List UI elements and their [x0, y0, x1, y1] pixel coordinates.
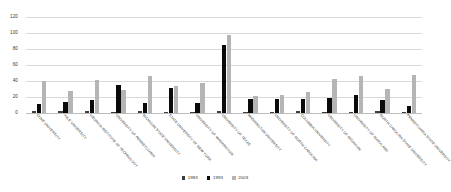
bar — [243, 112, 247, 113]
bar — [148, 76, 152, 113]
bar — [248, 99, 252, 113]
x-axis-label-slot: NORTH CAROLINA STATE UNIVERSITY — [369, 114, 395, 172]
legend-label: 1983 — [188, 176, 198, 180]
x-axis-label-slot: STATE UNIVERSITY OF NEW YORK — [158, 114, 184, 172]
y-axis-tick-label: 120 — [0, 15, 18, 20]
x-axis-label-slot: UNIVERSITY OF PENNSYLVANIA — [105, 114, 131, 172]
bar-group — [396, 17, 422, 113]
bar — [200, 83, 204, 113]
bar-group — [105, 17, 131, 113]
bar — [121, 90, 125, 113]
y-axis-tick-label: 60 — [0, 63, 18, 68]
bar-group — [26, 17, 52, 113]
legend-swatch-icon — [182, 176, 186, 180]
bar — [58, 111, 62, 113]
bar — [270, 112, 274, 113]
bar — [42, 81, 46, 113]
bar-group — [369, 17, 395, 113]
y-axis-tick-label: 0 — [0, 111, 18, 116]
bar — [375, 111, 379, 113]
bar — [37, 104, 41, 113]
x-axis-label-slot: UNIVERSITY OF NORTH CAROLINA — [264, 114, 290, 172]
x-axis-label-slot: UNIVERSITY OF TEXAS — [211, 114, 237, 172]
y-axis-tick-label: 20 — [0, 95, 18, 100]
bar — [95, 80, 99, 113]
bar-group — [79, 17, 105, 113]
bar-group — [184, 17, 210, 113]
bar — [275, 99, 279, 113]
legend-swatch-icon — [207, 176, 211, 180]
bar-group — [264, 17, 290, 113]
bar-group — [343, 17, 369, 113]
bar — [332, 79, 336, 113]
bar — [217, 111, 221, 113]
legend-item[interactable]: 1993 — [207, 176, 223, 180]
bar-group — [211, 17, 237, 113]
bar — [63, 102, 67, 113]
bar-group — [316, 17, 342, 113]
chart-legend: 198319932003 — [0, 176, 430, 180]
bar — [380, 100, 384, 113]
bar-group — [237, 17, 263, 113]
bar — [190, 112, 194, 113]
bar — [143, 103, 147, 113]
bar — [138, 111, 142, 113]
legend-label: 1993 — [213, 176, 223, 180]
bar — [349, 112, 353, 113]
y-axis-tick-label: 80 — [0, 47, 18, 52]
bar — [195, 103, 199, 113]
bar — [354, 95, 358, 113]
bar — [174, 86, 178, 113]
bar — [32, 111, 36, 113]
x-axis-label-slot: MICHIGAN STATE UNIVERSITY — [132, 114, 158, 172]
x-axis-label-slot: UNIVERSITY OF WASHINGTON — [184, 114, 210, 172]
x-axis-label-slot: YALE UNIVERSITY — [52, 114, 78, 172]
bar — [359, 76, 363, 113]
bar — [164, 112, 168, 113]
bar — [385, 89, 389, 113]
x-axis-label-slot: COLUMBIA UNIVERSITY — [290, 114, 316, 172]
bar — [222, 45, 226, 113]
bar — [306, 92, 310, 113]
bar — [90, 100, 94, 113]
x-axis-tick-label: PENNSYLVANIA STATE UNIVERSITY — [405, 114, 450, 164]
x-axis-label-slot: PENNSYLVANIA STATE UNIVERSITY — [396, 114, 422, 172]
bar — [402, 112, 406, 113]
bar-group — [52, 17, 78, 113]
bar — [412, 75, 416, 113]
bar — [327, 98, 331, 113]
x-axis-label-slot: UNIVERSITY OF MICHIGAN — [316, 114, 342, 172]
bar — [280, 95, 284, 113]
bar-group — [290, 17, 316, 113]
bar — [227, 35, 231, 113]
plot-area — [26, 17, 422, 113]
bar — [407, 106, 411, 113]
legend-item[interactable]: 2003 — [232, 176, 248, 180]
bars-layer — [26, 17, 422, 113]
y-axis-tick-label: 40 — [0, 79, 18, 84]
x-axis-labels: DUKE UNIVERSITYYALE UNIVERSITYGEORGIA IN… — [26, 114, 422, 172]
legend-item[interactable]: 1983 — [182, 176, 198, 180]
bar — [116, 85, 120, 113]
bar — [111, 112, 115, 113]
bar — [301, 99, 305, 113]
y-axis-tick-label: 100 — [0, 31, 18, 36]
x-axis-label-slot: DUKE UNIVERSITY — [26, 114, 52, 172]
bar — [68, 91, 72, 113]
bar — [169, 88, 173, 113]
bar — [85, 111, 89, 113]
bar — [322, 112, 326, 113]
legend-swatch-icon — [232, 176, 236, 180]
x-axis-label-slot: WASHINGTON UNIVERSITY — [237, 114, 263, 172]
bar-group — [158, 17, 184, 113]
bar-group — [132, 17, 158, 113]
bar — [253, 96, 257, 113]
x-axis-label-slot: GEORGIA INSTITUTE OF TECHNOLOGY — [79, 114, 105, 172]
legend-label: 2003 — [238, 176, 248, 180]
x-axis-label-slot: UNIVERSITY OF MARYLAND — [343, 114, 369, 172]
bar — [296, 111, 300, 113]
